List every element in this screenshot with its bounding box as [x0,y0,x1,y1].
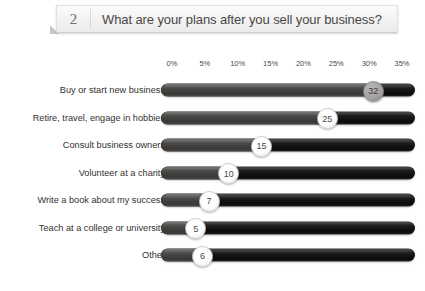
category-label: Retire, travel, engage in hobbies [33,113,165,123]
x-axis-tick: 30% [362,59,377,68]
x-axis-tick: 10% [230,59,245,68]
value-marker: 25 [317,108,338,129]
category-label: Buy or start new business [60,85,165,95]
bar-track [161,111,415,124]
horizontal-bar-chart: 0%5%10%15%20%25%30%35% Buy or start new … [0,50,425,291]
bar-fill [161,111,336,124]
x-axis-tick: 25% [329,59,344,68]
chart-row: Buy or start new business32 [0,76,425,104]
chart-row: Write a book about my success7 [0,186,425,214]
category-label: Write a book about my success [38,195,166,205]
chart-row: Other6 [0,241,425,269]
bar-track [161,166,415,179]
chart-row: Consult business owners15 [0,131,425,159]
value-marker: 5 [185,218,206,239]
chart-row: Volunteer at a charity10 [0,159,425,187]
x-axis-tick: 15% [263,59,278,68]
value-marker: 10 [218,163,239,184]
question-text: What are your plans after you sell your … [91,12,382,27]
x-axis-tick: 0% [167,59,178,68]
question-banner: 2 What are your plans after you sell you… [56,5,398,33]
x-axis-tick-labels: 0%5%10%15%20%25%30%35% [0,59,425,71]
chart-row: Retire, travel, engage in hobbies25 [0,104,425,132]
category-label: Teach at a college or university [39,223,165,233]
category-label: Volunteer at a charity [79,168,165,178]
x-axis-tick: 20% [296,59,311,68]
question-number: 2 [57,11,90,28]
value-marker: 7 [199,191,220,212]
category-label: Consult business owners [63,140,165,150]
value-marker: 15 [251,136,272,157]
bar-fill [161,84,382,97]
chart-row: Teach at a college or university5 [0,214,425,242]
value-marker: 32 [363,81,384,102]
x-axis-tick: 35% [394,59,409,68]
bar-track [161,139,415,152]
value-marker: 6 [192,246,213,267]
x-axis-tick: 5% [199,59,210,68]
